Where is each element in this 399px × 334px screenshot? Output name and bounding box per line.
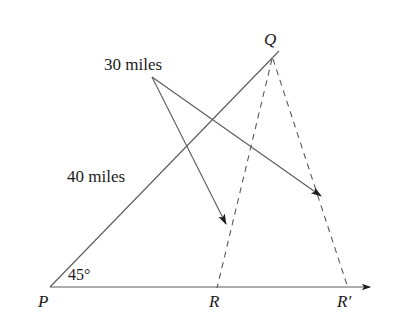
dashed-segment-q-to-rprime xyxy=(273,59,348,288)
measurement-label-30-miles: 30 miles xyxy=(104,55,162,74)
vertex-label-p: P xyxy=(37,292,48,311)
angle-label-45-degrees: 45° xyxy=(68,266,90,283)
measurement-label-40-miles: 40 miles xyxy=(67,167,125,186)
geometry-figure: P Q R R′ 45° 40 miles 30 miles xyxy=(0,0,399,334)
diagram-canvas: P Q R R′ 45° 40 miles 30 miles xyxy=(0,0,399,334)
leader-line-to-qr xyxy=(152,77,226,224)
vertex-label-rprime: R′ xyxy=(336,292,351,311)
vertex-label-q: Q xyxy=(264,30,276,49)
vertex-label-r: R xyxy=(208,292,220,311)
dashed-segment-q-to-r xyxy=(217,59,272,288)
